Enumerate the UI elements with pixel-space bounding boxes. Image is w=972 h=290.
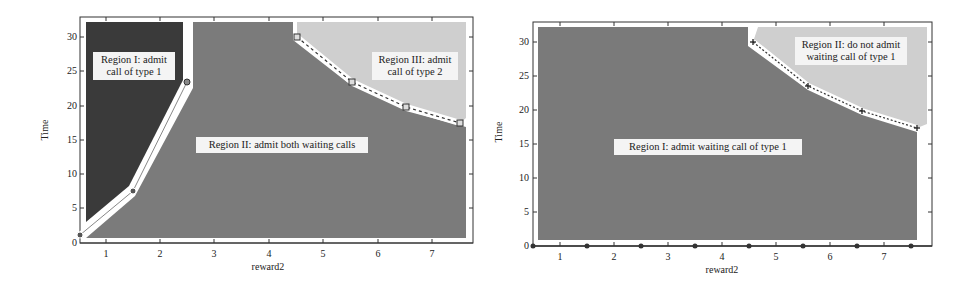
right-xtick: 2 xyxy=(612,251,617,262)
left-xtick: 6 xyxy=(376,248,381,259)
left-ytick: 10 xyxy=(67,168,77,179)
right-xtick: 7 xyxy=(882,251,887,262)
right-ytick: 15 xyxy=(519,138,529,149)
left-xtick: 5 xyxy=(321,248,326,259)
right-chart: 1 2 3 4 5 6 7 0 5 10 15 20 25 30 reward2… xyxy=(490,0,972,290)
left-ytick: 25 xyxy=(67,65,77,76)
right-ytick: 25 xyxy=(519,70,529,81)
left-ytick: 30 xyxy=(67,31,77,42)
left-region-2-label: Region II: admit both waiting calls xyxy=(196,137,368,153)
right-region-2-label: Region II: do not admit waiting call of … xyxy=(795,37,907,65)
right-xtick: 3 xyxy=(666,251,671,262)
right-xtick: 1 xyxy=(558,251,563,262)
left-ylabel: Time xyxy=(39,119,50,140)
left-ytick: 15 xyxy=(67,134,77,145)
right-xtick: 5 xyxy=(774,251,779,262)
right-ytick: 10 xyxy=(519,172,529,183)
right-ytick: 20 xyxy=(519,104,529,115)
left-ytick: 5 xyxy=(72,202,77,213)
left-region-3-label: Region III: admit call of type 2 xyxy=(372,52,458,80)
left-xtick: 7 xyxy=(430,248,435,259)
right-ytick: 5 xyxy=(524,206,529,217)
right-ytick: 30 xyxy=(519,36,529,47)
left-xtick: 2 xyxy=(158,248,163,259)
left-xlabel: reward2 xyxy=(252,261,285,272)
left-xtick: 3 xyxy=(212,248,217,259)
left-ytick: 0 xyxy=(72,237,77,248)
right-region-1-label: Region I: admit waiting call of type 1 xyxy=(614,139,802,155)
right-ytick: 0 xyxy=(524,240,529,251)
right-xlabel: reward2 xyxy=(706,264,739,275)
right-ylabel: Time xyxy=(493,121,504,142)
left-chart: 1 2 3 4 5 6 7 0 5 10 15 20 25 30 reward2… xyxy=(0,0,490,290)
right-xtick: 6 xyxy=(828,251,833,262)
left-ytick: 20 xyxy=(67,100,77,111)
left-xtick: 4 xyxy=(267,248,272,259)
left-region-1-label: Region I: admit call of type 1 xyxy=(93,52,175,80)
right-xtick: 4 xyxy=(720,251,725,262)
left-xtick: 1 xyxy=(104,248,109,259)
